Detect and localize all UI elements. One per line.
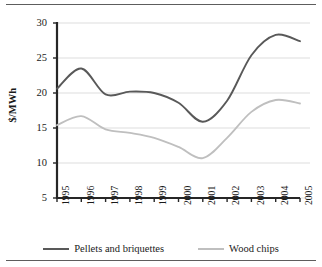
plot-area — [0, 0, 322, 267]
line-chart-canvas — [0, 0, 322, 267]
gridlines — [57, 23, 310, 198]
y-tick-label: 5 — [25, 193, 47, 204]
x-tick-label: 2003 — [256, 186, 266, 205]
x-tick-label: 1998 — [134, 186, 144, 205]
legend-swatch-icon — [43, 248, 69, 250]
y-tick-label: 20 — [25, 88, 47, 99]
legend-label: Pellets and briquettes — [74, 244, 164, 255]
y-tick-label: 30 — [25, 18, 47, 29]
x-tick-label: 2002 — [231, 186, 241, 205]
x-tick-label: 2004 — [280, 186, 290, 205]
x-tick-label: 1999 — [158, 186, 168, 205]
legend-label: Wood chips — [229, 244, 279, 255]
legend-item[interactable]: Wood chips — [198, 244, 279, 255]
y-axis-title: $/MWh — [8, 88, 22, 122]
y-tick-label: 25 — [25, 53, 47, 64]
x-tick-label: 2000 — [183, 186, 193, 205]
chart-legend: Pellets and briquettesWood chips — [0, 240, 322, 258]
series-line-0 — [57, 34, 300, 121]
legend-swatch-icon — [198, 248, 224, 250]
series-line-1 — [57, 100, 300, 159]
x-tick-label: 1995 — [61, 186, 71, 205]
x-tick-label: 1996 — [86, 186, 96, 205]
y-tick-label: 10 — [25, 158, 47, 169]
legend-item[interactable]: Pellets and briquettes — [43, 244, 164, 255]
x-tick-label: 1997 — [110, 186, 120, 205]
x-tick-label: 2005 — [304, 186, 314, 205]
y-tick-label: 15 — [25, 123, 47, 134]
chart-figure: $/MWh 51015202530 1995199619971998199920… — [0, 0, 322, 267]
x-tick-label: 2001 — [207, 186, 217, 205]
